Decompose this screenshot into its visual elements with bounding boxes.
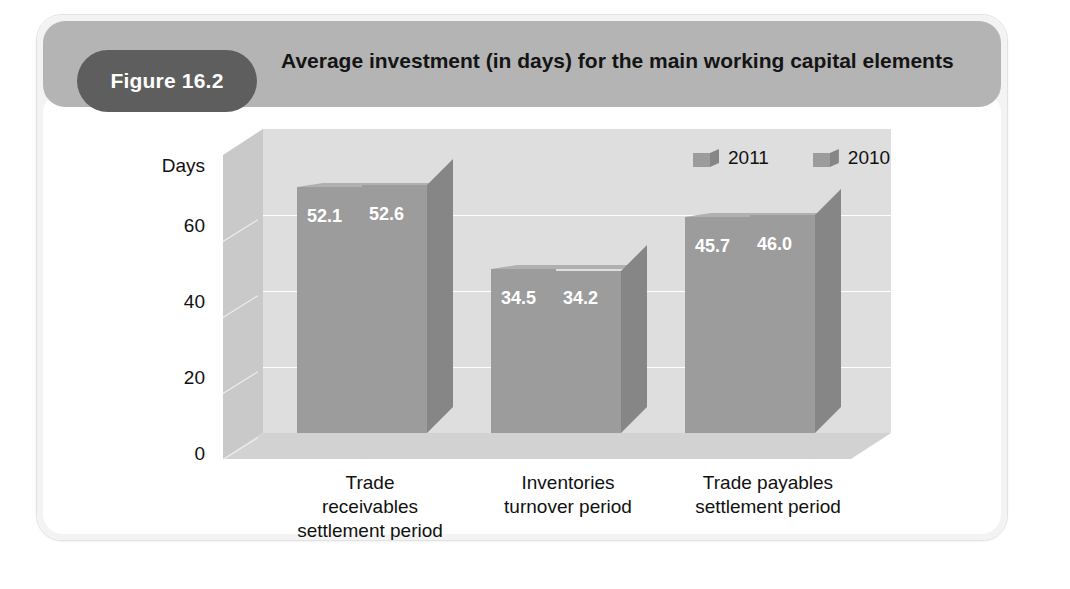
category-line: turnover period: [453, 495, 683, 519]
bar-label-2011: 34.5: [501, 288, 536, 309]
figure-card: Figure 16.2 Average investment (in days)…: [36, 14, 1008, 541]
category-line: Trade payables: [653, 471, 883, 495]
bar-label-2010: 52.6: [369, 204, 404, 225]
category-line: Inventories: [453, 471, 683, 495]
legend-swatch-icon: [693, 149, 719, 167]
category-line: Trade: [265, 471, 475, 495]
figure-header-band: Figure 16.2 Average investment (in days)…: [43, 21, 1001, 107]
chart-legend: 2011 2010: [693, 147, 890, 169]
bar-group-trade-payables: 45.7 46.0: [685, 213, 875, 433]
y-axis-title: Days: [95, 155, 205, 177]
category-line: receivables: [265, 495, 475, 519]
figure-title: Average investment (in days) for the mai…: [281, 47, 981, 75]
bar-group-trade-receivables: 52.1 52.6: [297, 183, 487, 433]
category-label-inventories: Inventories turnover period: [453, 471, 683, 519]
y-tick-60: 60: [95, 215, 205, 237]
category-line: settlement period: [653, 495, 883, 519]
category-label-trade-receivables: Trade receivables settlement period: [265, 471, 475, 541]
legend-label-2011: 2011: [728, 147, 769, 169]
axis-floor: [223, 433, 891, 459]
bar-group-inventories: 34.5 34.2: [491, 263, 681, 433]
legend-item-2011[interactable]: 2011: [693, 147, 769, 169]
figure-number-badge: Figure 16.2: [77, 50, 257, 112]
bar-label-2010: 46.0: [757, 234, 792, 255]
bar-label-2011: 52.1: [307, 206, 342, 227]
bar-label-2010: 34.2: [563, 288, 598, 309]
legend-item-2010[interactable]: 2010: [813, 147, 890, 169]
category-line: settlement period: [265, 519, 475, 542]
plot-area: 52.1 52.6 34.5 34.2 45.7 46.0: [223, 129, 891, 459]
category-label-trade-payables: Trade payables settlement period: [653, 471, 883, 519]
y-tick-0: 0: [95, 443, 205, 465]
figure-number-label: Figure 16.2: [110, 69, 223, 93]
bar-side-face: [427, 159, 453, 433]
axis-left-wall: [223, 129, 263, 459]
bar-side-face: [621, 245, 647, 433]
y-tick-40: 40: [95, 291, 205, 313]
bar-label-2011: 45.7: [695, 236, 730, 257]
chart-canvas: Days 60 40 20 0 52.1: [37, 107, 1007, 537]
legend-label-2010: 2010: [848, 147, 890, 169]
y-tick-20: 20: [95, 367, 205, 389]
bar-side-face: [815, 189, 841, 433]
legend-swatch-icon: [813, 149, 839, 167]
